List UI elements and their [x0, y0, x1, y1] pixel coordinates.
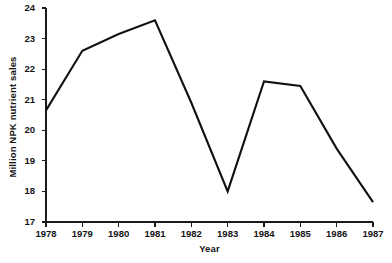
chart-figure: Million NPK nutrient sales 1718192021222… [0, 0, 392, 263]
series-line-npk-sales [46, 20, 373, 202]
axis-group [42, 8, 374, 227]
plot-area [0, 0, 392, 263]
x-axis-title: Year [46, 243, 373, 254]
x-tick-marks [46, 222, 373, 227]
y-tick-marks [42, 8, 47, 222]
axis-lines [46, 8, 373, 222]
